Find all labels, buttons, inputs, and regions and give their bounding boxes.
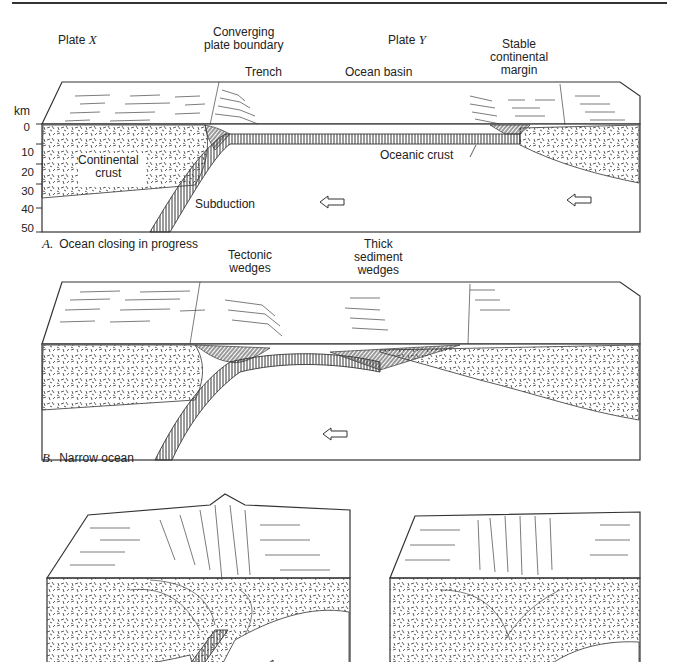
panel-d-block <box>390 512 640 662</box>
label-tectonic-wedges: Tectonic wedges <box>228 249 272 275</box>
depth-tick: 50 <box>8 222 34 234</box>
label-trench: Trench <box>245 66 282 79</box>
caption-panel-b: B.Narrow ocean <box>42 450 134 466</box>
label-plate-x: Plate X <box>58 33 97 47</box>
panel-b-block <box>42 282 640 460</box>
panel-c-block <box>47 494 350 662</box>
label-thick-sediment-wedges: Thick sediment wedges <box>354 238 403 277</box>
label-plate-y: Plate Y <box>388 33 426 47</box>
depth-tick: 0 <box>4 121 30 133</box>
label-stable-continental-margin: Stable continental margin <box>490 38 548 77</box>
depth-tick: 40 <box>8 203 34 215</box>
plate-tectonics-diagram <box>0 0 680 662</box>
depth-tick: 10 <box>8 146 34 158</box>
label-continental-crust: Continental crust <box>78 154 139 180</box>
label-subduction: Subduction <box>195 198 255 211</box>
depth-tick: 30 <box>8 185 34 197</box>
label-converging-boundary: Converging plate boundary <box>204 26 283 52</box>
depth-tick: 20 <box>8 166 34 178</box>
depth-axis-unit: km <box>14 105 30 118</box>
label-ocean-basin: Ocean basin <box>345 66 412 79</box>
label-oceanic-crust: Oceanic crust <box>380 149 453 162</box>
caption-panel-a: A.Ocean closing in progress <box>42 236 198 252</box>
